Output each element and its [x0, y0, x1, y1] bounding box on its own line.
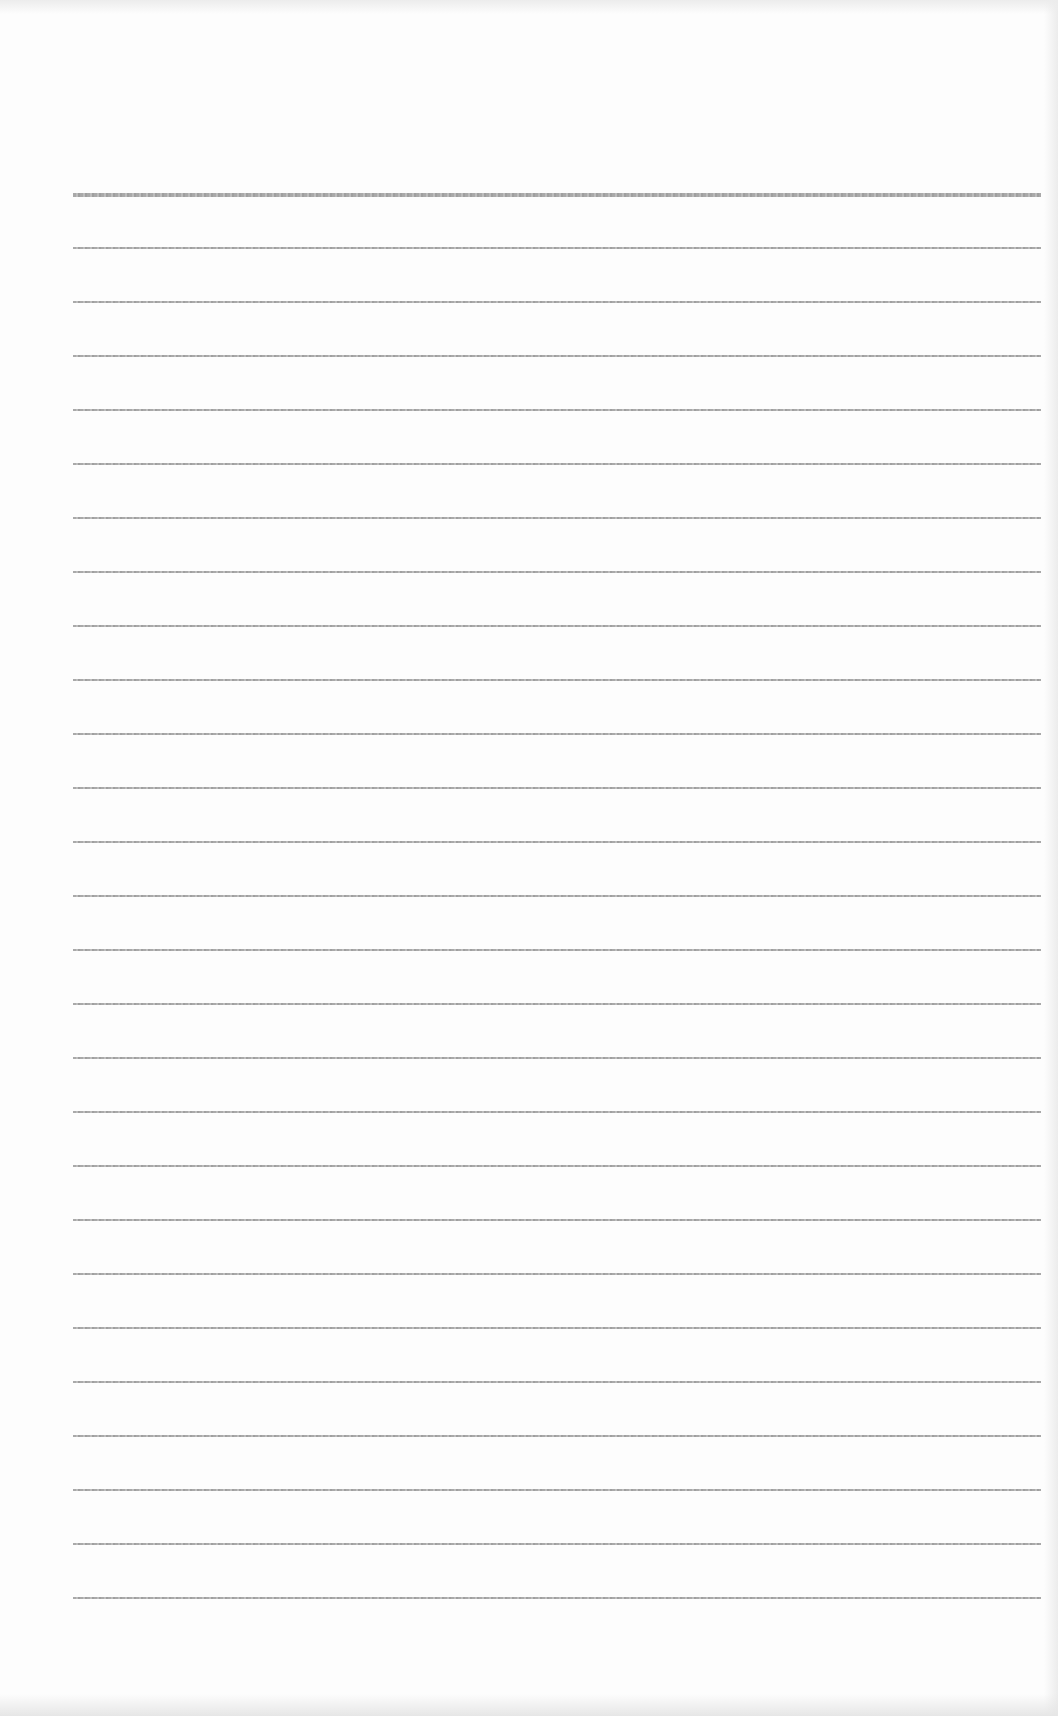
ruled-line [73, 355, 1041, 357]
ruled-line [73, 193, 1041, 197]
ruled-lines [0, 0, 1058, 1716]
ruled-line [73, 949, 1041, 951]
ruled-line [73, 517, 1041, 519]
ruled-line [73, 409, 1041, 411]
ruled-line [73, 301, 1041, 303]
ruled-line [73, 1381, 1041, 1383]
ruled-line [73, 1543, 1041, 1545]
ruled-line [73, 1003, 1041, 1005]
ruled-line [73, 625, 1041, 627]
ruled-line [73, 1597, 1041, 1599]
ruled-line [73, 1219, 1041, 1221]
ruled-line [73, 1111, 1041, 1113]
ruled-line [73, 1489, 1041, 1491]
ruled-line [73, 679, 1041, 681]
ruled-line [73, 733, 1041, 735]
ruled-line [73, 1327, 1041, 1329]
ruled-line [73, 1435, 1041, 1437]
ruled-line [73, 1057, 1041, 1059]
ruled-line [73, 841, 1041, 843]
ruled-line [73, 787, 1041, 789]
ruled-line [73, 571, 1041, 573]
ruled-line [73, 1273, 1041, 1275]
ruled-line [73, 247, 1041, 249]
ruled-line [73, 463, 1041, 465]
ruled-line [73, 1165, 1041, 1167]
ruled-line [73, 895, 1041, 897]
